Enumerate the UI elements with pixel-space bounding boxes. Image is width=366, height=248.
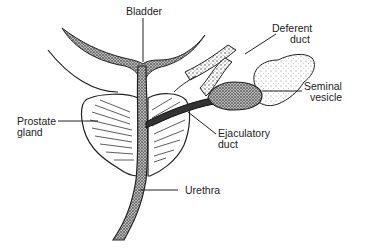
label-ejaculatory-duct-line2: duct <box>218 139 238 150</box>
label-bladder: Bladder <box>124 6 164 17</box>
label-urethra: Urethra <box>185 185 220 196</box>
label-deferent-duct-line2: duct <box>290 34 310 45</box>
label-seminal-vesicle-line2: vesicle <box>310 92 342 103</box>
bladder <box>48 28 205 92</box>
prostate-gland <box>82 94 190 176</box>
anatomy-diagram: Bladder Deferent duct Seminal vesicle Pr… <box>0 0 366 248</box>
label-prostate-gland-line2: gland <box>17 127 43 138</box>
